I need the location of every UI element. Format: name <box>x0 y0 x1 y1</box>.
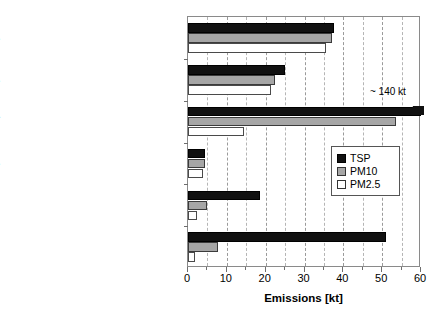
bar-pm10 <box>188 242 218 252</box>
x-axis-tick-label: 30 <box>297 272 309 284</box>
legend-swatch-pm10-icon <box>337 167 346 176</box>
x-axis-tick-label: 50 <box>375 272 387 284</box>
bar-pm10 <box>188 33 332 43</box>
bar-pm25 <box>188 85 271 95</box>
bar-tsp <box>188 149 205 159</box>
x-axis-tick <box>362 267 363 270</box>
overflow-annotation-label: ~ 140 kt <box>370 86 406 97</box>
gridline <box>227 17 228 266</box>
bar-pm25 <box>188 169 203 179</box>
bar-pm25 <box>188 127 244 137</box>
bar-pm10 <box>188 117 396 127</box>
x-axis-tick <box>284 267 285 270</box>
gridline <box>285 17 286 266</box>
x-axis-tick-label: 60 <box>414 272 426 284</box>
bar-tsp <box>188 232 386 242</box>
gridline <box>382 17 383 266</box>
bar-pm25 <box>188 252 195 262</box>
x-axis-tick <box>206 267 207 270</box>
chart-legend: TSP PM10 PM2.5 <box>331 146 400 196</box>
plot-area <box>187 16 420 267</box>
gridline <box>324 17 325 266</box>
legend-item-tsp: TSP <box>337 152 396 164</box>
bar-pm25 <box>188 43 326 53</box>
bar-pm10 <box>188 159 205 169</box>
bar-tsp <box>188 65 285 75</box>
legend-label-tsp: TSP <box>350 152 370 164</box>
y-axis-tick <box>184 59 188 60</box>
legend-item-pm10: PM10 <box>337 165 396 177</box>
gridline <box>305 17 306 266</box>
bar-pm10 <box>188 201 207 211</box>
x-axis-tick <box>401 267 402 270</box>
bar-pm25 <box>188 211 197 221</box>
emissions-bar-chart: Road transport - Diesel engines Nonroad … <box>0 0 442 321</box>
bar-tsp <box>188 107 421 117</box>
y-axis-tick <box>184 184 188 185</box>
x-axis-tick <box>323 267 324 270</box>
bar-tsp <box>188 191 260 201</box>
gridline <box>207 17 208 266</box>
gridline <box>266 17 267 266</box>
bar-pm10 <box>188 75 275 85</box>
legend-swatch-pm25-icon <box>337 180 346 189</box>
gridline <box>246 17 247 266</box>
x-axis-tick-label: 0 <box>184 272 190 284</box>
bar-tsp <box>188 23 334 33</box>
gridline <box>363 17 364 266</box>
y-axis-tick <box>184 226 188 227</box>
y-axis-tick <box>184 101 188 102</box>
gridline <box>402 17 403 266</box>
x-axis-tick-label: 20 <box>259 272 271 284</box>
x-axis-tick-label: 10 <box>220 272 232 284</box>
x-axis-tick-label: 40 <box>336 272 348 284</box>
gridline <box>343 17 344 266</box>
legend-label-pm10: PM10 <box>350 165 377 177</box>
legend-swatch-tsp-icon <box>337 154 346 163</box>
legend-label-pm25: PM2.5 <box>350 178 380 190</box>
x-axis-title: Emissions [kt] <box>187 292 420 304</box>
legend-item-pm25: PM2.5 <box>337 178 396 190</box>
y-axis-tick <box>184 143 188 144</box>
x-axis-tick <box>245 267 246 270</box>
